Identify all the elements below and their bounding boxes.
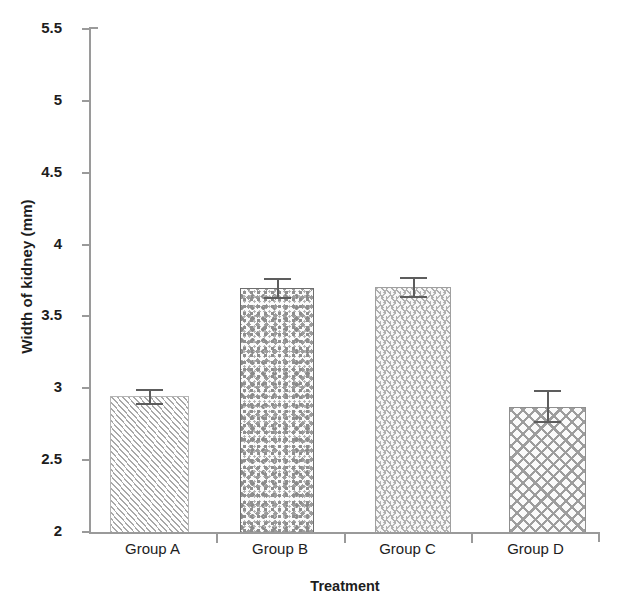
error-bar-cap-top [400, 277, 427, 279]
y-tick-label-5.5: 5.5 [2, 19, 62, 36]
error-bar-cap-top [136, 389, 163, 391]
y-axis-title: Width of kidney (mm) [18, 147, 35, 407]
y-tick-label-2: 2 [2, 522, 62, 539]
y-tick-label-4.5: 4.5 [2, 163, 62, 180]
error-bar-stem [413, 277, 415, 298]
error-bar-stem [547, 390, 549, 423]
error-bar-group-b [264, 278, 291, 299]
x-tick-label-group-c: Group C [344, 540, 471, 557]
error-bar-group-d [534, 390, 561, 423]
error-bar-cap-top [534, 390, 561, 392]
bar-chart-figure: Width of kidney (mm) 5.5 5 4.5 4 3.5 3 2… [0, 0, 622, 603]
x-tick-label-group-d: Group D [471, 540, 600, 557]
error-bar-cap-bottom [534, 421, 561, 423]
x-tick-label-group-a: Group A [89, 540, 216, 557]
error-bar-stem [277, 278, 279, 299]
y-tick-label-2.5: 2.5 [2, 450, 62, 467]
y-axis-top-cap [89, 27, 98, 29]
error-bar-group-a [136, 389, 163, 405]
error-bar-cap-top [264, 278, 291, 280]
bar-group-a [110, 396, 189, 533]
error-bar-cap-bottom [136, 403, 163, 405]
y-tick-label-3.5: 3.5 [2, 306, 62, 323]
error-bar-cap-bottom [264, 297, 291, 299]
x-tick-label-group-b: Group B [216, 540, 344, 557]
y-tick-label-5: 5 [2, 91, 62, 108]
y-axis-line [89, 27, 91, 534]
error-bar-group-c [400, 277, 427, 298]
x-axis-title: Treatment [90, 578, 600, 594]
bar-group-b [240, 288, 314, 533]
y-tick-label-4: 4 [2, 235, 62, 252]
error-bar-cap-bottom [400, 296, 427, 298]
y-tick-label-3: 3 [2, 378, 62, 395]
bar-group-d [509, 407, 586, 533]
bar-group-c [375, 287, 451, 533]
